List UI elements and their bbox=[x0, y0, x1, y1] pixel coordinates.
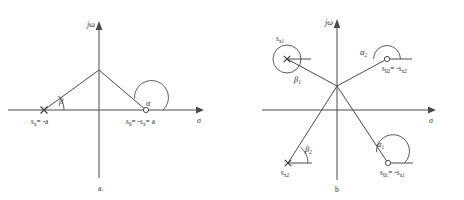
pole-label-x2-b: sx2 bbox=[281, 169, 290, 178]
real-axis-arrow-a bbox=[196, 107, 204, 114]
imaginary-axis-arrow-b bbox=[334, 19, 341, 28]
angle-arc-alpha-a bbox=[134, 81, 168, 110]
imaginary-axis-label-a: jω bbox=[86, 20, 95, 29]
angle-label-alpha2-b: α2 bbox=[360, 48, 368, 58]
ray-to-pole-a bbox=[44, 70, 99, 110]
panel-caption-a: a. bbox=[98, 184, 103, 193]
figure-root: jω σ β α sx= -a s0= -sx= a a. bbox=[0, 0, 464, 200]
zero-label-02-b: s02= -sx2 bbox=[382, 65, 407, 74]
panel-caption-b: b bbox=[335, 185, 339, 194]
imaginary-axis-label-b: jω bbox=[324, 18, 333, 27]
angle-label-beta1-b: β1 bbox=[293, 75, 301, 85]
zero-marker-01-b bbox=[385, 160, 390, 165]
zero-label-01-b: s01= -sx1 bbox=[380, 169, 405, 178]
angle-label-alpha-a: α bbox=[146, 99, 151, 108]
panel-b: jω σ β1 α2 β2 α1 sx1 s02= -sx2 sx2 s01= … bbox=[232, 0, 464, 200]
ray-to-zero-a bbox=[99, 70, 146, 110]
ray-to-zero-02-b bbox=[337, 59, 387, 86]
angle-label-beta-a: β bbox=[58, 97, 64, 106]
zero-label-a: s0= -sx= a bbox=[126, 118, 156, 127]
ray-to-zero-01-b bbox=[337, 86, 388, 163]
pole-label-x1-b: sx1 bbox=[276, 35, 285, 44]
panel-a: jω σ β α sx= -a s0= -sx= a a. bbox=[0, 0, 232, 200]
zero-marker-a bbox=[143, 107, 148, 112]
real-axis-label-b: σ bbox=[429, 116, 434, 125]
ray-to-pole-x2-b bbox=[288, 86, 337, 163]
angle-label-beta2-b: β2 bbox=[304, 145, 312, 155]
pole-label-a: sx= -a bbox=[31, 118, 49, 127]
imaginary-axis-arrow-a bbox=[96, 21, 103, 30]
real-axis-label-a: σ bbox=[197, 116, 202, 125]
real-axis-arrow-b bbox=[428, 107, 436, 114]
zero-marker-02-b bbox=[384, 56, 389, 61]
angle-label-alpha1-b: α1 bbox=[377, 140, 384, 150]
